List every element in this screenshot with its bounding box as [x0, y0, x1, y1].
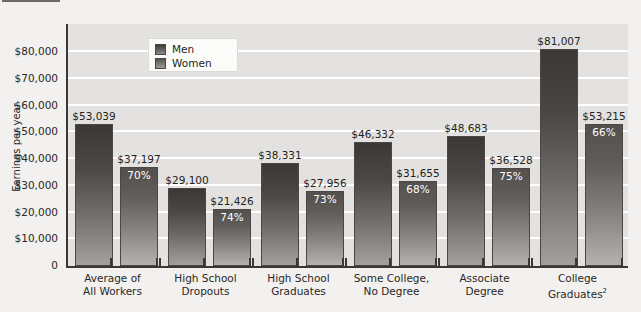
bar-value-label-men: $29,100 — [165, 174, 208, 186]
x-axis-labels: Average ofAll WorkersHigh SchoolDropouts… — [66, 272, 628, 310]
bar-men — [540, 49, 578, 266]
y-tick-label: 0 — [51, 259, 58, 271]
bar-men — [168, 188, 206, 266]
x-tick-label: AssociateDegree — [438, 272, 531, 298]
legend-swatch-men-icon — [155, 44, 166, 55]
y-tick-label: $20,000 — [15, 206, 58, 218]
bar-group: $81,007$53,21566% — [533, 24, 626, 266]
x-tick — [438, 258, 440, 268]
bar-men — [75, 124, 113, 266]
bar-men — [261, 163, 299, 266]
x-tick — [203, 258, 205, 268]
x-tick — [156, 258, 158, 268]
x-tick-label: High SchoolDropouts — [159, 272, 252, 298]
y-tick-label: $30,000 — [15, 179, 58, 191]
bar-value-label-men: $38,331 — [258, 149, 301, 161]
y-tick-label: $40,000 — [15, 152, 58, 164]
bar-value-label-men: $81,007 — [537, 35, 580, 47]
chart-title — [0, 0, 641, 3]
bar-value-label-women: $31,655 — [396, 167, 439, 179]
y-tick-label: $50,000 — [15, 125, 58, 137]
x-tick — [249, 258, 251, 268]
x-tick-label: CollegeGraduates2 — [531, 272, 624, 301]
x-tick — [110, 258, 112, 268]
bar-percent-label-women: 66% — [592, 126, 615, 138]
x-tick — [528, 258, 530, 268]
y-tick-label: $60,000 — [15, 99, 58, 111]
x-tick — [482, 258, 484, 268]
bar-value-label-men: $46,332 — [351, 128, 394, 140]
x-tick — [575, 258, 577, 268]
bar-value-label-women: $27,956 — [303, 177, 346, 189]
bar-percent-label-women: 74% — [220, 211, 243, 223]
bar-value-label-women: $36,528 — [489, 154, 532, 166]
x-tick — [159, 258, 161, 268]
x-tick — [531, 258, 533, 268]
bar-percent-label-women: 75% — [499, 170, 522, 182]
x-axis-ticks — [66, 258, 628, 268]
bar-value-label-men: $48,683 — [444, 122, 487, 134]
bar-group: $48,683$36,52875% — [440, 24, 533, 266]
bar-women — [585, 124, 623, 266]
x-tick — [342, 258, 344, 268]
bar-group: $38,331$27,95673% — [254, 24, 347, 266]
x-tick-label: Some College,No Degree — [345, 272, 438, 298]
bar-percent-label-women: 73% — [313, 193, 336, 205]
bar-women — [492, 168, 530, 266]
bar-percent-label-women: 68% — [406, 183, 429, 195]
legend-label-women: Women — [172, 57, 212, 69]
x-tick — [252, 258, 254, 268]
bar-value-label-women: $21,426 — [210, 195, 253, 207]
legend-item-men: Men — [155, 42, 231, 56]
bar-percent-label-women: 70% — [127, 169, 150, 181]
y-tick-label: $70,000 — [15, 72, 58, 84]
bar-group: $46,332$31,65568% — [347, 24, 440, 266]
bar-value-label-men: $53,039 — [72, 110, 115, 122]
x-tick — [296, 258, 298, 268]
y-axis: Earnings per year 0$10,000$20,000$30,000… — [0, 24, 62, 268]
bar-value-label-women: $37,197 — [117, 153, 160, 165]
x-tick — [621, 258, 623, 268]
chart-figure: Earnings per year 0$10,000$20,000$30,000… — [0, 0, 641, 312]
x-tick-label: High SchoolGraduates — [252, 272, 345, 298]
x-tick — [389, 258, 391, 268]
bar-women — [120, 167, 158, 267]
bar-value-label-women: $53,215 — [582, 110, 625, 122]
legend: Men Women — [148, 38, 238, 72]
y-tick-label: $80,000 — [15, 45, 58, 57]
legend-swatch-women-icon — [155, 58, 166, 69]
y-tick-label: $10,000 — [15, 232, 58, 244]
x-tick — [435, 258, 437, 268]
x-tick-label: Average ofAll Workers — [66, 272, 159, 298]
bar-men — [354, 142, 392, 266]
bar-men — [447, 136, 485, 266]
legend-label-men: Men — [172, 43, 194, 55]
legend-item-women: Women — [155, 56, 231, 70]
x-tick — [345, 258, 347, 268]
